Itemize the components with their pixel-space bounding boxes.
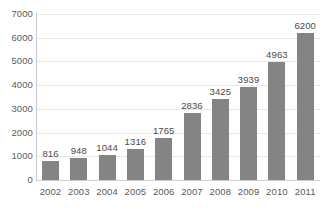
y-axis-tick-label: 0 [0, 175, 33, 185]
y-axis-tick-label: 6000 [0, 33, 33, 43]
bar[interactable] [212, 99, 229, 180]
bar[interactable] [155, 138, 172, 180]
bar[interactable] [184, 113, 201, 180]
bar-value-label: 1316 [115, 137, 155, 147]
bar[interactable] [99, 155, 116, 180]
y-axis-tick-label: 5000 [0, 56, 33, 66]
bar-value-label: 1765 [144, 126, 184, 136]
y-axis-tick-label: 7000 [0, 9, 33, 19]
bar[interactable] [240, 87, 257, 180]
bar-value-label: 4963 [257, 50, 297, 60]
y-axis-tick-label: 3000 [0, 104, 33, 114]
y-axis-tick-label: 4000 [0, 80, 33, 90]
bar-value-label: 6200 [285, 21, 325, 31]
bar-chart: 01000200030004000500060007000 8169481044… [0, 0, 332, 211]
axis-baseline [37, 180, 320, 181]
bar[interactable] [42, 161, 59, 180]
bar[interactable] [127, 149, 144, 180]
x-axis-tick-labels: 2002200320042005200620072008200920102011 [37, 186, 320, 202]
bar[interactable] [297, 33, 314, 180]
bar[interactable] [70, 158, 87, 180]
y-axis-tick-label: 1000 [0, 151, 33, 161]
gridline [37, 38, 320, 39]
bar-value-label: 2836 [172, 101, 212, 111]
bar-value-label: 3939 [229, 75, 269, 85]
x-axis-tick-label: 2011 [285, 186, 325, 197]
y-axis-tick-label: 2000 [0, 128, 33, 138]
gridline [37, 14, 320, 15]
bar[interactable] [268, 62, 285, 180]
bar-value-label: 3425 [200, 87, 240, 97]
y-axis-tick-labels: 01000200030004000500060007000 [0, 0, 33, 211]
